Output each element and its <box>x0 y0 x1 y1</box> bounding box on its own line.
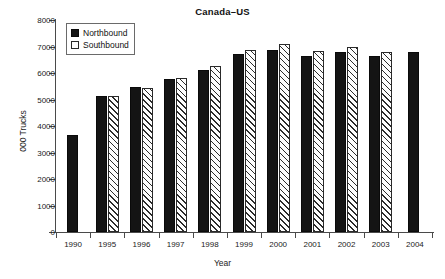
bar-southbound-1997 <box>176 78 187 232</box>
x-tick <box>295 233 296 238</box>
bar-northbound-1996 <box>130 87 141 232</box>
bar-southbound-2001 <box>313 51 324 232</box>
x-axis-line <box>55 232 434 233</box>
x-tick <box>124 233 125 238</box>
legend-swatch-northbound-icon <box>71 29 79 37</box>
x-axis-label: Year <box>0 258 445 268</box>
y-tick-label: 1000 <box>11 201 55 210</box>
bar-northbound-2002 <box>335 52 346 232</box>
x-tick <box>261 233 262 238</box>
bar-northbound-2003 <box>369 56 380 232</box>
bar-northbound-1998 <box>198 70 209 232</box>
chart-legend: Northbound Southbound <box>66 23 135 55</box>
chart-figure: Canada–US 010002000300040005000600070008… <box>0 0 445 279</box>
bar-northbound-1999 <box>233 54 244 232</box>
bar-northbound-1997 <box>164 79 175 232</box>
bar-southbound-1996 <box>142 88 153 232</box>
chart-title: Canada–US <box>0 6 445 17</box>
x-tick <box>329 233 330 238</box>
legend-swatch-southbound-icon <box>71 41 79 49</box>
legend-item-southbound: Southbound <box>71 39 129 51</box>
x-tick <box>193 233 194 238</box>
legend-item-northbound: Northbound <box>71 27 129 39</box>
bar-southbound-1999 <box>245 50 256 232</box>
bar-southbound-2003 <box>381 52 392 232</box>
bar-northbound-2001 <box>301 56 312 232</box>
bar-southbound-2000 <box>279 44 290 232</box>
x-tick <box>227 233 228 238</box>
legend-label-southbound: Southbound <box>83 40 129 50</box>
y-tick-label: 7000 <box>11 42 55 51</box>
y-tick-label: 8000 <box>11 16 55 25</box>
x-tick-label: 2004 <box>395 240 435 249</box>
x-tick <box>364 233 365 238</box>
x-tick <box>159 233 160 238</box>
bar-northbound-2004 <box>408 52 419 232</box>
bar-northbound-1990 <box>67 135 78 232</box>
x-tick <box>56 233 57 238</box>
bar-southbound-2002 <box>347 47 358 232</box>
x-tick <box>432 233 433 238</box>
bar-southbound-1998 <box>210 66 221 232</box>
bar-southbound-1995 <box>108 96 119 232</box>
y-tick-label: 6000 <box>11 69 55 78</box>
y-tick-label: 0 <box>11 228 55 237</box>
y-axis-label: 000 Trucks <box>18 91 28 171</box>
bar-northbound-2000 <box>267 50 278 232</box>
x-tick <box>398 233 399 238</box>
y-tick-label: 2000 <box>11 175 55 184</box>
bar-northbound-1995 <box>96 96 107 232</box>
legend-label-northbound: Northbound <box>83 28 127 38</box>
x-tick <box>90 233 91 238</box>
